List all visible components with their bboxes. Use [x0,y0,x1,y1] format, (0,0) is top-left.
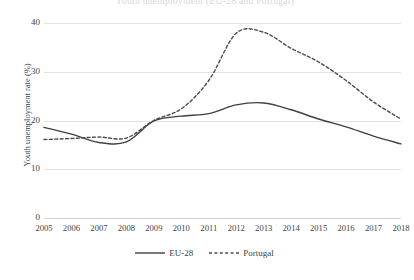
legend-label: EU-28 [169,248,193,258]
x-tick-label: 2018 [384,224,414,233]
legend-item-portugal[interactable]: Portugal [209,248,274,258]
legend-swatch-icon [135,249,165,257]
chart-legend: EU-28Portugal [0,248,409,258]
plot-area: 010203040 200520062007200820092010201120… [44,23,401,218]
y-tick-label: 0 [14,213,40,222]
y-tick-label: 20 [14,116,40,125]
series-line-eu-28 [44,103,401,144]
y-tick-label: 10 [14,164,40,173]
chart-title: Youth unemployment (EU-28 and Portugal) [40,0,370,7]
series-line-portugal [44,29,401,140]
y-tick-label: 30 [14,67,40,76]
legend-label: Portugal [243,248,274,258]
legend-item-eu-28[interactable]: EU-28 [135,248,193,258]
y-tick-label: 40 [14,18,40,27]
gridline-0 [44,218,401,219]
legend-swatch-icon [209,249,239,257]
series-lines [44,23,401,218]
